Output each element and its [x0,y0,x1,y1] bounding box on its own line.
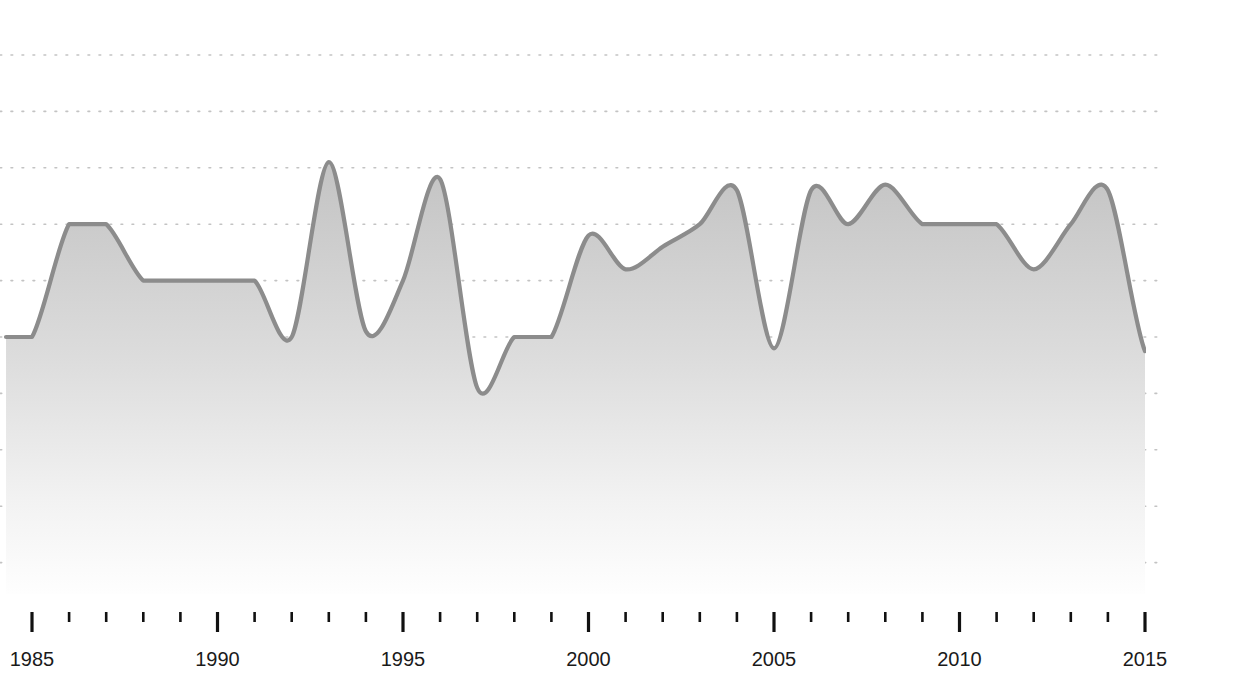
x-axis-tick-label: 1990 [195,648,240,670]
area-chart: 1985199019952000200520102015 [0,0,1242,688]
x-axis-tick-label: 1995 [381,648,426,670]
x-axis-tick-label: 2015 [1123,648,1168,670]
x-axis-tick-label: 1985 [10,648,55,670]
x-axis-tick-label: 2010 [937,648,982,670]
x-axis-tick-label: 2000 [566,648,611,670]
x-axis-tick-label: 2005 [752,648,797,670]
chart-container: 1985199019952000200520102015 [0,0,1242,688]
